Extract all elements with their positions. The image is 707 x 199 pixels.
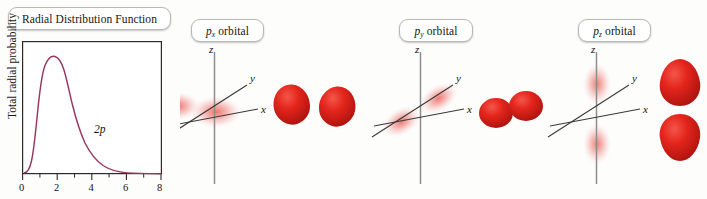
py-caption-text: py orbital bbox=[415, 25, 458, 37]
py-orbital-caption: py orbital bbox=[399, 19, 473, 42]
px-lobe-right bbox=[319, 86, 355, 126]
pz-solid-lobes bbox=[654, 56, 706, 166]
pz-orbital-caption: pz orbital bbox=[578, 19, 651, 42]
px-orbital-caption: px orbital bbox=[191, 19, 264, 42]
radial-distribution-panel: Radial Distribution Function Total radia… bbox=[0, 0, 180, 199]
py-axis-label-x: x bbox=[466, 103, 472, 115]
px-orbital-panel: px orbital z y x bbox=[180, 0, 358, 199]
pz-axis-label-z: z bbox=[590, 44, 596, 55]
py-orbital-panel: py orbital z y x bbox=[358, 0, 534, 199]
py-axis-label-z: z bbox=[414, 44, 420, 55]
py-axis-label-y: y bbox=[455, 72, 461, 84]
radial-distribution-caption: Radial Distribution Function bbox=[8, 7, 171, 30]
rdf-chart-svg: 2p bbox=[22, 41, 162, 183]
y-axis-label: Total radial probability bbox=[6, 0, 18, 132]
py-lobe-lower-left bbox=[479, 98, 513, 128]
pz-caption-text: pz orbital bbox=[593, 25, 636, 37]
x-axis-ticks bbox=[23, 174, 161, 180]
pz-axis-label-x: x bbox=[642, 103, 648, 115]
px-axis-label-z: z bbox=[208, 44, 214, 55]
px-axis-label-x: x bbox=[260, 103, 266, 115]
pz-axis-label-y: y bbox=[631, 72, 637, 84]
pz-lobe-bottom bbox=[660, 114, 701, 161]
pz-lobe-top bbox=[660, 59, 701, 106]
px-axis-label-y: y bbox=[249, 72, 255, 84]
px-solid-lobes bbox=[272, 78, 358, 136]
px-caption-text: px orbital bbox=[206, 25, 249, 37]
px-lobe-left bbox=[274, 84, 310, 124]
pz-orbital-panel: pz orbital z y x bbox=[534, 0, 707, 199]
x-axis-tick-labels: 0 2 4 6 8 bbox=[22, 182, 163, 199]
radial-distribution-caption-text: Radial Distribution Function bbox=[22, 13, 157, 25]
figure-canvas: Radial Distribution Function Total radia… bbox=[0, 0, 707, 199]
curve-annotation-2p: 2p bbox=[94, 123, 106, 136]
